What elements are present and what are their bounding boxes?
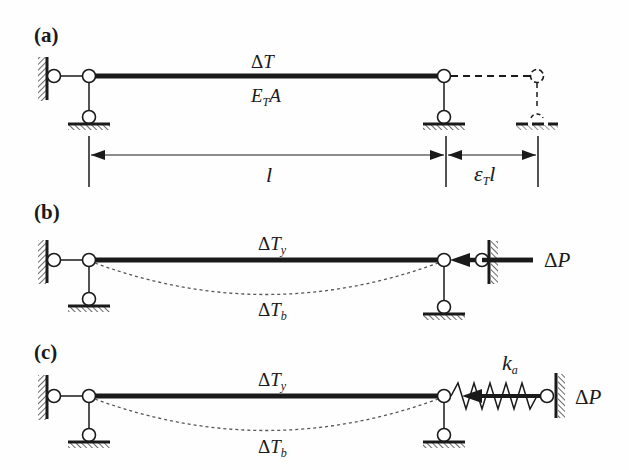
temperature-change-label: ΔT [251,52,274,71]
ground-support-icon [423,314,465,320]
ground-support-icon [68,442,110,448]
hinge-icon [83,390,96,403]
roller-icon [83,111,96,124]
ground-support-icon [423,124,465,130]
roller-icon [83,293,96,306]
structural-diagram: (a) ΔT ETA l εTl (b) ΔTy ΔTb ΔP (c) ΔTy … [0,0,629,470]
buckled-shape-curve [95,263,438,295]
hinge-icon [83,70,96,83]
diagram-drawing [0,0,629,470]
roller-icon [438,429,451,442]
hinge-icon [48,70,61,83]
buckling-temperature-label: ΔTb [258,300,287,322]
yield-temperature-label: ΔTy [258,370,286,392]
roller-icon [83,429,96,442]
panel-label-c: (c) [34,342,57,363]
spring-stiffness-label: ka [502,352,518,376]
length-dimension-label: l [266,164,272,186]
buckled-shape-curve [95,399,438,431]
ground-support-icon [68,124,110,130]
panel-c-drawing [38,373,565,448]
hinge-icon [438,254,451,267]
roller-icon [438,111,451,124]
panel-label-a: (a) [34,25,59,46]
dimension-lines [89,136,538,187]
load-label: ΔP [544,250,570,271]
buckling-temperature-label: ΔTb [258,437,287,459]
wall-support-icon [556,373,565,418]
thermal-extension-label: εTl [474,163,495,187]
wall-support-icon [38,375,47,420]
hinge-icon [438,390,451,403]
wall-support-icon [38,240,47,284]
ground-support-icon [68,306,110,312]
yield-temperature-label: ΔTy [258,234,286,256]
roller-icon [438,301,451,314]
wall-support-icon [489,240,498,284]
load-label: ΔP [575,387,601,408]
hinge-icon [83,254,96,267]
hinge-icon [48,390,61,403]
wall-support-icon [38,57,47,101]
hinge-icon [541,390,554,403]
ground-support-icon [423,442,465,448]
panel-label-b: (b) [34,202,60,223]
extended-position-dashed [451,70,558,131]
hinge-icon [438,70,451,83]
hinge-icon [48,254,61,267]
axial-stiffness-label: ETA [251,86,281,108]
